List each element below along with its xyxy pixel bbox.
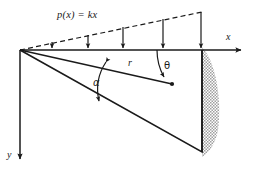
x-axis-label: x [226,32,230,42]
wall-region [202,47,219,157]
radius-label: r [128,58,132,68]
wedge-outline [20,50,202,152]
load-diagram-figure: p(x) = kx x y r α θ [0,0,253,172]
y-axis-label: y [7,150,11,160]
load-function-label: p(x) = kx [57,10,97,21]
theta-angle-label: θ [164,61,170,71]
field-point-dot [170,82,174,86]
diagram-canvas [0,0,253,172]
load-envelope-dashed [20,12,202,50]
alpha-angle-label: α [93,78,100,88]
